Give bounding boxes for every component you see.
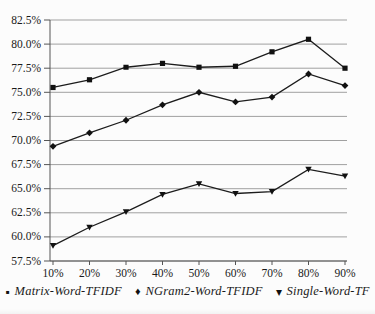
legend-item: ▪Matrix-Word-TFIDF [5,284,122,299]
y-tick-label: 67.5% [11,158,41,170]
x-tick-label: 50% [188,267,210,279]
y-tick-label: 77.5% [11,62,41,74]
y-tick-label: 75.0% [11,86,41,98]
diamond-icon: ♦ [135,286,141,297]
x-tick-label: 70% [261,267,283,279]
series-line-NGram2-Word-TFIDF [53,74,345,146]
x-tick-label: 20% [79,267,101,279]
legend-item-label: Matrix-Word-TFIDF [15,284,122,299]
x-tick-label: 90% [334,267,356,279]
x-tick-label: 30% [115,267,137,279]
data-point-diamond [50,143,57,150]
series-line-Matrix-Word-TFIDF [53,39,345,87]
data-point-square [196,65,201,70]
data-point-square [269,49,274,54]
y-tick-label: 65.0% [11,182,41,194]
data-point-square [50,85,55,90]
data-point-triangle-down [159,192,165,198]
y-tick-label: 72.5% [11,110,41,122]
y-tick-label: 57.5% [11,255,41,267]
x-tick-label: 60% [225,267,247,279]
data-point-diamond [159,101,166,108]
data-point-square [160,61,165,66]
data-point-square [87,77,92,82]
x-tick-label: 40% [152,267,174,279]
triangle-down-icon: ▾ [276,286,282,298]
square-icon: ▪ [5,286,9,298]
data-point-diamond [86,129,93,136]
legend: ▪Matrix-Word-TFIDF♦NGram2-Word-TFIDF▾Sin… [0,284,375,299]
legend-item-label: Single-Word-TF [287,284,370,299]
data-point-diamond [342,82,349,89]
x-tick-label: 10% [42,267,64,279]
x-tick-label: 80% [298,267,320,279]
line-chart: 57.5%60.0%62.5%65.0%67.5%70.0%72.5%75.0%… [0,0,375,314]
legend-item: ▾Single-Word-TF [276,284,370,299]
data-point-square [123,65,128,70]
data-point-diamond [305,71,312,78]
data-point-diamond [196,89,203,96]
y-tick-label: 80.0% [11,38,41,50]
legend-item-label: NGram2-Word-TFIDF [146,284,263,299]
data-point-square [306,37,311,42]
data-point-triangle-down [342,174,348,180]
series-line-Single-Word-TF [53,169,345,245]
legend-item: ♦NGram2-Word-TFIDF [135,284,263,299]
data-point-triangle-down [50,243,56,249]
plot-area: 57.5%60.0%62.5%65.0%67.5%70.0%72.5%75.0%… [0,0,375,314]
y-tick-label: 70.0% [11,134,41,146]
y-tick-label: 62.5% [11,206,41,218]
y-tick-label: 60.0% [11,230,41,242]
data-point-diamond [232,99,239,106]
data-point-triangle-down [86,225,92,231]
data-point-square [233,64,238,69]
data-point-diamond [123,117,130,124]
data-point-square [342,66,347,71]
y-tick-label: 82.5% [11,14,41,26]
data-point-diamond [269,94,276,101]
